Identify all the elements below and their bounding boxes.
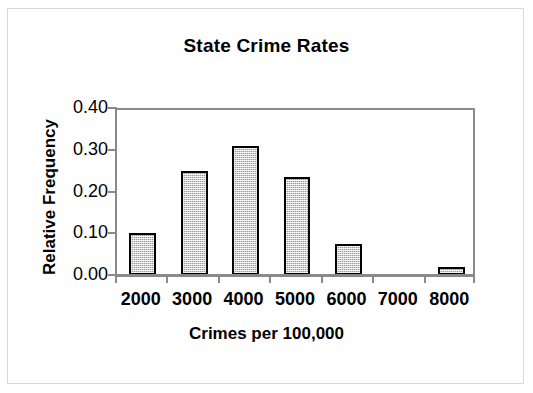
x-tick-label-4000: 4000	[218, 290, 269, 308]
x-tick-label-3000: 3000	[166, 290, 217, 308]
y-tick-label-0.30: 0.30	[52, 140, 108, 158]
x-tick-mark-0	[115, 275, 117, 283]
x-tick-label-7000: 7000	[372, 290, 423, 308]
x-tick-mark-2	[218, 275, 220, 283]
x-axis-title: Crimes per 100,000	[8, 324, 525, 344]
x-tick-mark-6	[424, 275, 426, 283]
y-tick-label-0.10: 0.10	[52, 223, 108, 241]
x-tick-label-8000: 8000	[424, 290, 475, 308]
x-tick-mark-3	[269, 275, 271, 283]
x-tick-mark-5	[372, 275, 374, 283]
x-tick-mark-1	[166, 275, 168, 283]
bar-6000	[335, 244, 362, 275]
bar-5000	[284, 177, 311, 275]
chart-container: State Crime Rates Relative Frequency 0.4…	[7, 8, 524, 384]
bar-3000	[181, 171, 208, 275]
y-tick-label-0.40: 0.40	[52, 98, 108, 116]
category-axis-line	[115, 274, 475, 277]
plot-area	[115, 108, 475, 275]
y-tick-label-0.20: 0.20	[52, 182, 108, 200]
x-tick-label-6000: 6000	[321, 290, 372, 308]
x-tick-mark-end	[473, 275, 475, 283]
y-tick-label-0.00: 0.00	[52, 265, 108, 283]
x-tick-label-5000: 5000	[269, 290, 320, 308]
x-tick-label-2000: 2000	[115, 290, 166, 308]
chart-title: State Crime Rates	[8, 35, 525, 57]
bar-2000	[129, 233, 156, 275]
bars-container	[117, 110, 473, 275]
bar-4000	[232, 146, 259, 275]
x-tick-mark-4	[321, 275, 323, 283]
